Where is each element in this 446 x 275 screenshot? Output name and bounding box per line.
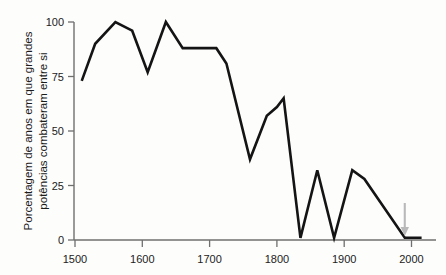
x-tick-label: 1900 bbox=[332, 253, 356, 265]
y-axis-title-line1: Porcentagem de anos em que grandes bbox=[22, 31, 34, 230]
x-axis-ticks: 150016001700180019002000 bbox=[63, 240, 424, 265]
line-chart: Porcentagem de anos em que grandes potên… bbox=[0, 0, 446, 275]
x-tick-label: 1700 bbox=[197, 253, 221, 265]
x-tick-label: 1800 bbox=[265, 253, 289, 265]
y-tick-label: 75 bbox=[52, 71, 64, 83]
y-tick-label: 0 bbox=[58, 234, 64, 246]
series-group bbox=[82, 22, 422, 238]
y-tick-label: 50 bbox=[52, 125, 64, 137]
annotations-group bbox=[401, 203, 409, 236]
x-tick-label: 2000 bbox=[399, 253, 423, 265]
y-axis-ticks: 0255075100 bbox=[46, 16, 74, 246]
data-series-line bbox=[82, 22, 422, 238]
chart-container: Porcentagem de anos em que grandes potên… bbox=[0, 0, 446, 275]
y-tick-label: 25 bbox=[52, 180, 64, 192]
y-axis-title-line2: potências combateram entre si bbox=[37, 52, 49, 209]
x-tick-label: 1500 bbox=[63, 253, 87, 265]
y-tick-label: 100 bbox=[46, 16, 64, 28]
x-tick-label: 1600 bbox=[130, 253, 154, 265]
y-axis-title-group: Porcentagem de anos em que grandes potên… bbox=[22, 31, 49, 230]
